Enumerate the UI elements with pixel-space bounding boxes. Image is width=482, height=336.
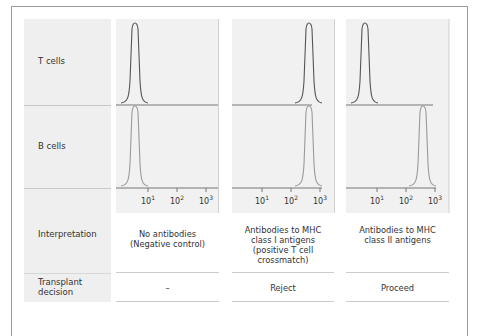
x-tick: 101 [370, 194, 384, 206]
row-label-interpretation: Interpretation [24, 218, 111, 252]
x-tick: 103 [428, 194, 442, 206]
histogram-plot [346, 19, 450, 213]
divider [24, 188, 111, 189]
row-label-transplant-decision: Transplant decision [24, 273, 111, 302]
decision-cell: Reject [232, 274, 334, 302]
decision-cell: Proceed [346, 274, 449, 302]
histogram-plot [116, 19, 219, 213]
histogram-plot [232, 19, 335, 213]
interpretation-cell: Antibodies to MHC class II antigens [346, 218, 449, 273]
decision-cell: – [116, 274, 219, 302]
x-tick: 102 [284, 194, 298, 206]
x-tick: 102 [170, 194, 184, 206]
row-label-b-cells: B cells [24, 105, 111, 188]
interpretation-cell: No antibodies (Negative control) [116, 218, 219, 273]
decision-text: – [165, 283, 169, 293]
x-tick: 102 [399, 194, 413, 206]
transplant-label-line2: decision [38, 288, 73, 298]
interpretation-line: class II antigens [346, 236, 449, 246]
t-cells-label: T cells [38, 57, 65, 67]
decision-text: Reject [270, 283, 296, 293]
interpretation-line: (Negative control) [116, 240, 219, 250]
x-tick: 103 [313, 194, 327, 206]
interpretation-cell: Antibodies to MHC class I antigens (posi… [232, 218, 334, 273]
x-tick: 101 [141, 194, 155, 206]
b-cells-label: B cells [38, 142, 66, 152]
interpretation-line: crossmatch) [232, 256, 334, 266]
decision-text: Proceed [381, 283, 414, 293]
x-tick: 101 [255, 194, 269, 206]
row-label-t-cells: T cells [24, 19, 111, 105]
x-tick: 103 [199, 194, 213, 206]
interpretation-label: Interpretation [38, 230, 97, 240]
